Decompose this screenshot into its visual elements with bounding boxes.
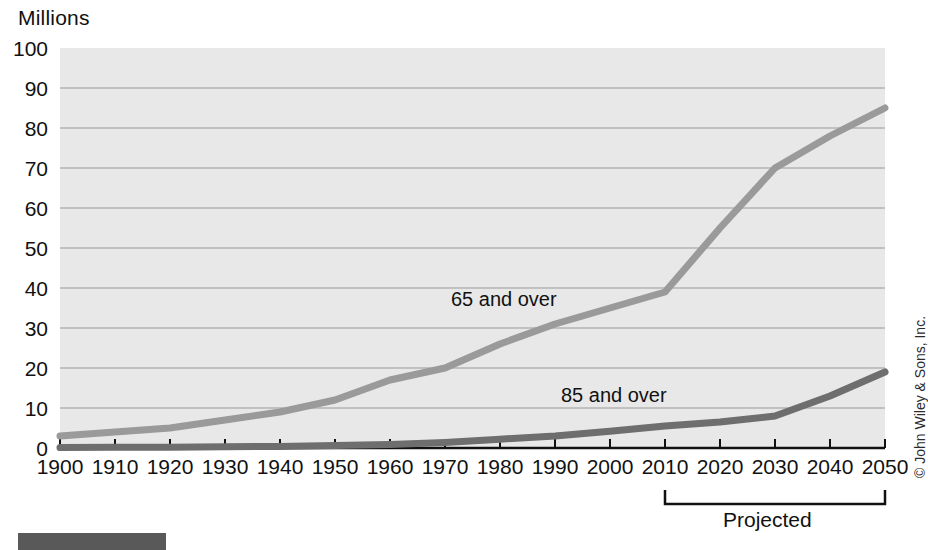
y-axis-tick-label: 20 xyxy=(0,358,48,379)
projected-annotation: Projected xyxy=(723,508,812,532)
x-axis-tick-label: 1930 xyxy=(197,456,253,477)
x-axis-tick-label: 2020 xyxy=(692,456,748,477)
y-axis-tick-label: 40 xyxy=(0,278,48,299)
projected-bracket xyxy=(665,490,885,504)
x-axis-tick-label: 1920 xyxy=(142,456,198,477)
x-axis-tick-label: 1980 xyxy=(472,456,528,477)
y-axis-tick-label: 90 xyxy=(0,78,48,99)
x-axis-tick-label: 2050 xyxy=(857,456,913,477)
y-axis-tick-label: 50 xyxy=(0,238,48,259)
y-axis-tick-label: 80 xyxy=(0,118,48,139)
x-axis-tick-label: 2030 xyxy=(747,456,803,477)
x-axis-tick-label: 2040 xyxy=(802,456,858,477)
x-axis-tick-label: 2000 xyxy=(582,456,638,477)
x-axis-tick-label: 1900 xyxy=(32,456,88,477)
x-axis-tick-label: 1950 xyxy=(307,456,363,477)
x-axis-tick-label: 1990 xyxy=(527,456,583,477)
y-axis-tick-label: 70 xyxy=(0,158,48,179)
series-annotation-85-and-over: 85 and over xyxy=(561,384,667,407)
y-axis-tick-label: 100 xyxy=(0,38,48,59)
x-axis-tick-label: 1960 xyxy=(362,456,418,477)
x-axis-tick-label: 2010 xyxy=(637,456,693,477)
y-axis-tick-label: 60 xyxy=(0,198,48,219)
x-axis-tick-label: 1940 xyxy=(252,456,308,477)
x-axis-tick-label: 1970 xyxy=(417,456,473,477)
copyright-credit: © John Wiley & Sons, Inc. xyxy=(912,316,928,478)
series-annotation-65-and-over: 65 and over xyxy=(451,288,557,311)
x-axis-tick-label: 1910 xyxy=(87,456,143,477)
y-axis-tick-label: 10 xyxy=(0,398,48,419)
y-axis-tick-label: 30 xyxy=(0,318,48,339)
footer-color-swatch xyxy=(18,533,166,550)
